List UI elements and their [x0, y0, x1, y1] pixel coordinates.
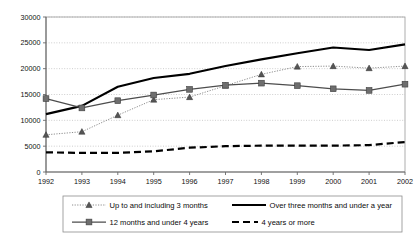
x-axis-tick-label: 1994	[110, 177, 126, 186]
y-axis-tick-label: 5000	[25, 142, 41, 151]
legend-label: 4 years or more	[262, 218, 315, 227]
x-axis-tick-label: 1992	[38, 177, 54, 186]
data-point-marker-square	[402, 81, 408, 87]
x-axis-tick-label: 1997	[218, 177, 234, 186]
legend-label: 12 months and under 4 years	[110, 218, 209, 227]
line-chart: 050001000015000200002500030000 199219931…	[0, 0, 415, 238]
legend-label: Up to and including 3 months	[110, 201, 209, 210]
x-axis-tick-label: 2002	[397, 177, 413, 186]
data-point-marker-square	[86, 219, 92, 225]
chart-canvas: 050001000015000200002500030000 199219931…	[0, 0, 415, 238]
y-axis-tick-label: 30000	[21, 13, 41, 22]
x-axis-tick-label: 2001	[361, 177, 377, 186]
x-axis-tick-label: 1996	[182, 177, 198, 186]
data-point-marker-square	[223, 82, 229, 88]
data-point-marker-square	[43, 96, 49, 102]
data-point-marker-square	[115, 98, 121, 104]
y-axis-tick-label: 15000	[21, 90, 41, 99]
y-axis-tick-label: 0	[37, 168, 41, 177]
x-axis-tick-label: 1993	[74, 177, 90, 186]
x-axis-tick-label: 1999	[289, 177, 305, 186]
y-axis-tick-label: 10000	[21, 116, 41, 125]
data-point-marker-square	[366, 87, 372, 93]
y-axis-tick-label: 25000	[21, 38, 41, 47]
legend-label: Over three months and under a year	[270, 201, 393, 210]
data-point-marker-square	[187, 86, 193, 92]
data-point-marker-square	[151, 92, 157, 98]
data-point-marker-square	[79, 105, 85, 111]
data-point-marker-square	[330, 86, 336, 92]
x-axis-tick-label: 1995	[146, 177, 162, 186]
y-axis-tick-label: 20000	[21, 64, 41, 73]
data-point-marker-square	[259, 80, 265, 86]
x-axis-tick-label: 2000	[325, 177, 341, 186]
x-axis-tick-label: 1998	[253, 177, 269, 186]
data-point-marker-square	[294, 83, 300, 89]
